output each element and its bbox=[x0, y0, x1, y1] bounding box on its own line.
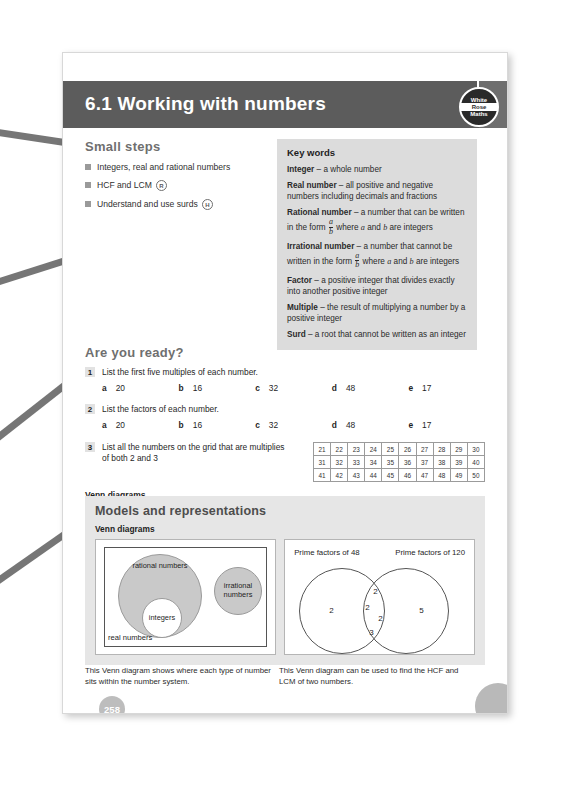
question-part: b16 bbox=[179, 383, 256, 393]
question-part: e17 bbox=[408, 420, 485, 430]
key-word-entry: Factor – a positive integer that divides… bbox=[287, 275, 467, 297]
question-parts: a20 b16 c32 d48 e17 bbox=[102, 420, 485, 430]
textbook-page: 6.1 Working with numbers White Rose Math… bbox=[62, 52, 508, 714]
grid-cell: 49 bbox=[450, 469, 467, 482]
question-text: List the factors of each number. bbox=[102, 404, 219, 415]
key-word-term: Surd bbox=[287, 330, 306, 339]
key-word-term: Irrational number bbox=[287, 242, 354, 251]
part-value: 20 bbox=[116, 383, 125, 393]
grid-cell: 47 bbox=[416, 469, 433, 482]
question-row: 1 List the first five multiples of each … bbox=[85, 367, 485, 378]
question-row: 2 List the factors of each number. bbox=[85, 404, 485, 415]
question-part: e17 bbox=[408, 383, 485, 393]
venn-title-prime-factors-48: Prime factors of 48 bbox=[294, 548, 359, 558]
grid-cell: 31 bbox=[314, 456, 331, 469]
key-word-term: Rational number bbox=[287, 208, 352, 217]
grid-cell: 50 bbox=[467, 469, 484, 482]
universe-label-real-numbers: real numbers bbox=[108, 633, 152, 642]
table-row: 41 42 43 44 45 46 47 48 49 50 bbox=[314, 469, 485, 482]
key-words-panel: Key words Integer – a whole number Real … bbox=[277, 139, 477, 350]
part-label: a bbox=[102, 383, 107, 393]
venn-value-right-only: 5 bbox=[419, 606, 423, 615]
key-word-entry: Rational number – a number that can be w… bbox=[287, 207, 467, 236]
small-steps-section: Small steps Integers, real and rational … bbox=[85, 139, 270, 218]
venn-value-intersection: 2 bbox=[373, 587, 377, 596]
question-part: b16 bbox=[179, 420, 256, 430]
circle-integers: integers bbox=[142, 598, 182, 638]
grid-cell: 38 bbox=[433, 456, 450, 469]
venn-value-left-only: 2 bbox=[329, 606, 333, 615]
square-bullet-icon bbox=[85, 201, 91, 207]
part-label: d bbox=[332, 420, 337, 430]
key-word-entry: Multiple – the result of multiplying a n… bbox=[287, 302, 467, 324]
grid-cell: 21 bbox=[314, 443, 331, 456]
circle-prime-factors-120 bbox=[363, 568, 449, 654]
grid-cell: 36 bbox=[399, 456, 416, 469]
small-steps-list: Integers, real and rational numbers HCF … bbox=[85, 162, 270, 210]
question-number: 3 bbox=[85, 442, 95, 452]
small-steps-item: HCF and LCMR bbox=[85, 180, 270, 191]
part-value: 48 bbox=[346, 420, 355, 430]
key-word-entry: Real number – all positive and negative … bbox=[287, 180, 467, 202]
grid-cell: 35 bbox=[382, 456, 399, 469]
fraction-denominator: b bbox=[329, 227, 333, 236]
venn-diagram-row: rational numbers integers irrational num… bbox=[95, 539, 475, 655]
grid-cell: 44 bbox=[365, 469, 382, 482]
question-part: a20 bbox=[102, 420, 179, 430]
key-words-heading: Key words bbox=[287, 147, 467, 158]
circle-label-irrational: irrational numbers bbox=[215, 582, 261, 600]
part-label: e bbox=[408, 420, 413, 430]
question-part: d48 bbox=[332, 383, 409, 393]
part-value: 17 bbox=[422, 383, 431, 393]
small-steps-item: Understand and use surdsH bbox=[85, 199, 270, 210]
question-part: c32 bbox=[255, 420, 332, 430]
logo-line-2: Rose bbox=[461, 103, 497, 110]
key-word-term: Real number bbox=[287, 181, 337, 190]
part-label: b bbox=[179, 420, 184, 430]
venn-value-intersection: 3 bbox=[369, 628, 373, 637]
grid-cell: 26 bbox=[399, 443, 416, 456]
part-value: 20 bbox=[116, 420, 125, 430]
key-word-entry: Surd – a root that cannot be written as … bbox=[287, 329, 467, 340]
page-number-badge: 258 bbox=[99, 696, 125, 714]
part-value: 32 bbox=[269, 420, 278, 430]
small-steps-heading: Small steps bbox=[85, 139, 270, 154]
circle-label-rational: rational numbers bbox=[132, 562, 187, 571]
venn-diagram-prime-factors: Prime factors of 48 Prime factors of 120… bbox=[284, 539, 475, 655]
question-number: 1 bbox=[85, 367, 95, 377]
number-grid: 21 22 23 24 25 26 27 28 29 30 31 32 33 3… bbox=[313, 442, 485, 482]
part-value: 17 bbox=[422, 420, 431, 430]
key-word-entry: Integer – a whole number bbox=[287, 164, 467, 175]
grid-cell: 28 bbox=[433, 443, 450, 456]
are-you-ready-section: Are you ready? 1 List the first five mul… bbox=[85, 345, 485, 504]
grid-cell: 34 bbox=[365, 456, 382, 469]
square-bullet-icon bbox=[85, 164, 91, 170]
caption-right: This Venn diagram can be used to find th… bbox=[279, 666, 475, 688]
venn-value-intersection: 2 bbox=[378, 614, 382, 623]
key-word-term: Integer bbox=[287, 165, 314, 174]
grid-cell: 23 bbox=[348, 443, 365, 456]
models-heading: Models and representations bbox=[95, 504, 475, 518]
grid-cell: 24 bbox=[365, 443, 382, 456]
models-and-representations-section: Models and representations Venn diagrams… bbox=[85, 496, 485, 665]
part-value: 48 bbox=[346, 383, 355, 393]
grid-cell: 40 bbox=[467, 456, 484, 469]
grid-cell: 25 bbox=[382, 443, 399, 456]
grid-cell: 30 bbox=[467, 443, 484, 456]
grid-cell: 29 bbox=[450, 443, 467, 456]
key-word-term: Factor bbox=[287, 276, 312, 285]
part-label: b bbox=[179, 383, 184, 393]
key-word-definition: – a positive integer that divides exactl… bbox=[287, 276, 454, 296]
logo-line-3: Maths bbox=[470, 111, 487, 117]
grid-cell: 43 bbox=[348, 469, 365, 482]
small-steps-item-label: Understand and use surds bbox=[97, 199, 198, 209]
grid-cell: 48 bbox=[433, 469, 450, 482]
part-label: c bbox=[255, 420, 260, 430]
models-subheading: Venn diagrams bbox=[95, 524, 475, 534]
grid-cell: 42 bbox=[331, 469, 348, 482]
part-label: a bbox=[102, 420, 107, 430]
question-parts: a20 b16 c32 d48 e17 bbox=[102, 383, 485, 393]
venn-diagram-number-sets: rational numbers integers irrational num… bbox=[95, 539, 276, 655]
grid-cell: 46 bbox=[399, 469, 416, 482]
part-value: 16 bbox=[193, 383, 202, 393]
